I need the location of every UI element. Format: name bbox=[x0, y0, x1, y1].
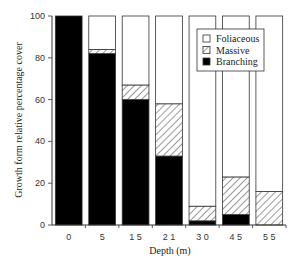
legend-swatch-foliaceous bbox=[203, 35, 210, 42]
x-axis-title: Depth (m) bbox=[149, 245, 190, 257]
bar-stack-15 bbox=[122, 16, 149, 225]
x-tick-label: 5 bbox=[100, 232, 105, 242]
x-tick-label: 2 1 bbox=[163, 232, 176, 242]
ticks-group: 051 52 13 04 55 5 bbox=[66, 225, 286, 242]
y-tick-label: 40 bbox=[35, 136, 45, 146]
bar-segment-branching bbox=[89, 54, 116, 225]
bar-segment-massive bbox=[156, 104, 183, 156]
bar-segment-massive bbox=[122, 85, 149, 100]
legend-label-massive: Massive bbox=[216, 45, 250, 56]
bar-segment-branching bbox=[122, 100, 149, 225]
y-tick-label: 0 bbox=[40, 220, 45, 230]
bar-stack-21 bbox=[156, 16, 183, 225]
legend: FoliaceousMassiveBranching bbox=[197, 29, 264, 71]
y-tick-label: 60 bbox=[35, 95, 45, 105]
bar-segment-foliaceous bbox=[122, 16, 149, 85]
bar-segment-massive bbox=[256, 192, 283, 225]
bar-segment-branching bbox=[156, 156, 183, 225]
legend-label-branching: Branching bbox=[216, 56, 258, 67]
bar-stack-5 bbox=[89, 16, 116, 225]
legend-swatch-massive bbox=[203, 47, 210, 54]
bar-segment-foliaceous bbox=[89, 16, 116, 49]
stacked-bar-chart: 020406080100 051 52 13 04 55 5 Depth (m)… bbox=[0, 0, 302, 272]
bar-segment-branching bbox=[55, 16, 82, 225]
y-axis-title: Growth form relative percentage cover bbox=[13, 42, 24, 198]
y-tick-label: 20 bbox=[35, 178, 45, 188]
x-tick-label: 0 bbox=[66, 232, 71, 242]
y-tick-label: 80 bbox=[35, 53, 45, 63]
bar-segment-branching bbox=[189, 221, 216, 225]
bar-segment-foliaceous bbox=[156, 16, 183, 104]
legend-swatch-branching bbox=[203, 58, 210, 65]
bar-stack-0 bbox=[55, 16, 82, 225]
x-tick-label: 4 5 bbox=[230, 232, 243, 242]
x-tick-label: 3 0 bbox=[196, 232, 209, 242]
bar-segment-massive bbox=[222, 177, 249, 215]
legend-label-foliaceous: Foliaceous bbox=[216, 33, 259, 44]
y-tick-label: 100 bbox=[30, 11, 45, 21]
x-tick-label: 5 5 bbox=[263, 232, 276, 242]
bar-segment-massive bbox=[189, 206, 216, 221]
bar-segment-branching bbox=[222, 215, 249, 225]
x-tick-label: 1 5 bbox=[129, 232, 142, 242]
bar-segment-massive bbox=[89, 49, 116, 53]
